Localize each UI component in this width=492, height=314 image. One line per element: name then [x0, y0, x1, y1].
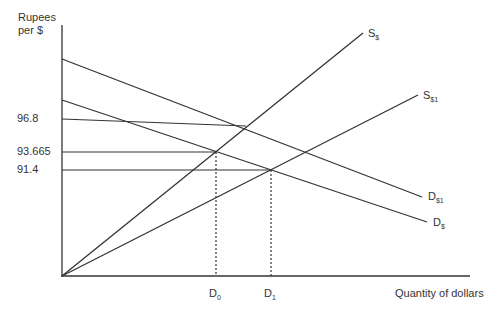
x-tick-d1-main: D — [264, 287, 272, 299]
label-d-main: D — [433, 216, 441, 228]
label-s-sub: $ — [375, 34, 379, 41]
label-s: S$ — [368, 28, 379, 41]
ref-line-96-8 — [62, 119, 246, 126]
y-tick-93-665: 93.665 — [17, 146, 51, 157]
x-tick-d1-sub: 1 — [272, 294, 276, 301]
y-tick-91-4: 91.4 — [17, 164, 38, 175]
x-tick-d1: D1 — [264, 288, 276, 301]
demand-curve-d1 — [62, 59, 422, 197]
x-tick-d0-sub: 0 — [217, 294, 221, 301]
label-s1: S$1 — [423, 90, 438, 103]
x-tick-d0-main: D — [209, 287, 217, 299]
label-d1-sub: $1 — [436, 197, 444, 204]
x-tick-d0: D0 — [209, 288, 221, 301]
label-d1-main: D — [428, 190, 436, 202]
label-s1-sub: $1 — [430, 96, 438, 103]
supply-curve-s — [62, 33, 363, 276]
label-d: D$ — [433, 217, 445, 230]
y-tick-96-8: 96.8 — [17, 113, 38, 124]
label-d1: D$1 — [428, 191, 444, 204]
y-axis-label-line2: per $ — [18, 25, 43, 36]
x-axis-label: Quantity of dollars — [395, 288, 484, 299]
exchange-rate-diagram — [0, 0, 492, 314]
supply-curve-s1 — [62, 95, 418, 276]
label-d-sub: $ — [441, 223, 445, 230]
y-axis-label-line1: Rupees — [18, 12, 56, 23]
